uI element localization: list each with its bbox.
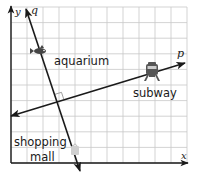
- diagram-canvas: x y q p aquarium subway: [0, 0, 199, 177]
- shopping-mall-label-line1: shopping: [14, 135, 67, 149]
- line-p-label: p: [177, 47, 184, 60]
- shopping-mall-label-line2: mall: [30, 150, 55, 164]
- train-icon: [144, 62, 160, 81]
- subway-label: subway: [133, 86, 177, 100]
- line-q-label: q: [31, 4, 38, 17]
- y-axis-label: y: [14, 6, 21, 17]
- coordinate-map-diagram: x y q p aquarium subway: [0, 0, 199, 177]
- aquarium-label: aquarium: [54, 54, 109, 68]
- x-axis-label: x: [181, 150, 187, 161]
